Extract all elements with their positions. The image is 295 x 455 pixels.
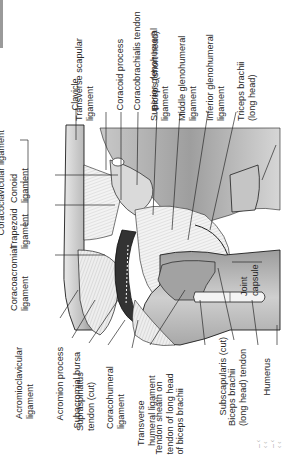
label-superior-glenohumeral-ligament: Superior glenohumeralligament xyxy=(149,28,170,121)
label-joint-capsule: Jointcapsule xyxy=(239,264,260,296)
label-coracoclavicular-ligament: Coracoclavicular ligament xyxy=(0,130,6,235)
label-coracobrachialis-tendon: Coracobrachialis tendon xyxy=(132,11,143,110)
label-conoid-ligament: Conoidligament xyxy=(9,168,30,203)
label-middle-glenohumeral-ligament: Middle glenohumeralligament xyxy=(177,36,198,121)
label-transverse-scapular-ligament: Transverse scapularligament xyxy=(74,38,95,121)
label-trapezoid-ligament: Trapezoidligament xyxy=(9,208,30,249)
label-biceps-long-head-tendon: Biceps brachii(long head) tendon xyxy=(227,349,248,426)
label-acromioclavicular-ligament: Acromioclavicularligament xyxy=(14,347,35,419)
label-inferior-glenohumeral-ligament: Inferior glenohumeralligament xyxy=(205,34,226,121)
label-supraspinatus-tendon: Supraspinatustendon (cut) xyxy=(75,372,96,431)
label-coracoid-process: Coracoid process xyxy=(115,39,126,111)
label-coracohumeral-ligament: Coracohumeralligament xyxy=(105,366,126,429)
label-tendon-sheath: Tendon sheath ontendon of long headof bi… xyxy=(154,373,186,454)
label-humerus: Humerus xyxy=(262,358,273,395)
edge-marks: – ‹ ‹ ‹ – ‹ ‹ ‹ xyxy=(255,436,283,448)
label-acromion-process: Acromion process xyxy=(55,347,66,421)
label-coracoacromial-ligament: Coracoacromialligament xyxy=(9,247,30,311)
label-triceps-brachii-long-head: Triceps brachii(long head) xyxy=(236,62,257,121)
